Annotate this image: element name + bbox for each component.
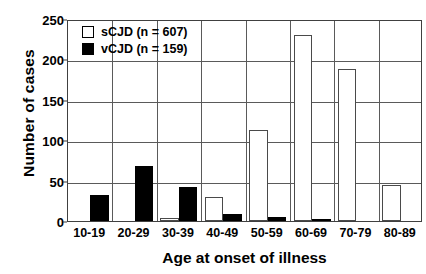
x-axis-tick-labels: 10-1920-2930-3940-4950-5960-6970-7980-89 — [67, 226, 422, 246]
bar-scjd-60-69 — [294, 35, 313, 221]
y-axis-tick-250: 250 — [4, 13, 64, 28]
legend-item-vcjd: vCJD (n = 159) — [82, 41, 188, 57]
bar-vcjd-60-69 — [312, 219, 331, 221]
plot-area: sCJD (n = 607) vCJD (n = 159) — [67, 20, 422, 222]
legend-swatch-scjd-icon — [82, 26, 94, 38]
category-separator — [201, 21, 202, 221]
x-axis-tick-70-79: 70-79 — [339, 226, 371, 240]
x-axis-tick-30-39: 30-39 — [162, 226, 194, 240]
x-axis-title: Age at onset of illness — [67, 249, 422, 267]
chart-figure: Number of cases 050100150200250 sCJD (n … — [0, 0, 426, 274]
x-axis-tick-40-49: 40-49 — [206, 226, 238, 240]
category-separator — [334, 21, 335, 221]
y-axis-tick-150: 150 — [4, 93, 64, 108]
y-axis-tick-50: 50 — [4, 174, 64, 189]
legend-item-scjd: sCJD (n = 607) — [82, 24, 188, 40]
x-axis-tick-60-69: 60-69 — [295, 226, 327, 240]
bar-vcjd-40-49 — [223, 214, 242, 221]
bar-vcjd-20-29 — [135, 166, 154, 221]
category-separator — [379, 21, 380, 221]
x-axis-tick-20-29: 20-29 — [118, 226, 150, 240]
y-axis-tick-200: 200 — [4, 53, 64, 68]
bar-scjd-40-49 — [205, 197, 224, 221]
y-axis-tick-0: 0 — [4, 215, 64, 230]
bar-scjd-70-79 — [338, 69, 357, 221]
bar-scjd-80-89 — [382, 185, 401, 221]
legend-label-vcjd: vCJD (n = 159) — [101, 43, 188, 56]
legend-label-scjd: sCJD (n = 607) — [101, 26, 188, 39]
bar-scjd-50-59 — [249, 130, 268, 221]
x-axis-tick-50-59: 50-59 — [251, 226, 283, 240]
x-axis-tick-80-89: 80-89 — [384, 226, 416, 240]
chart-legend: sCJD (n = 607) vCJD (n = 159) — [82, 24, 188, 57]
bar-vcjd-10-19 — [90, 195, 109, 221]
x-axis-tick-10-19: 10-19 — [73, 226, 105, 240]
y-axis-tick-100: 100 — [4, 134, 64, 149]
legend-swatch-vcjd-icon — [82, 43, 94, 55]
bar-vcjd-30-39 — [179, 187, 198, 221]
category-separator — [290, 21, 291, 221]
bar-scjd-30-39 — [160, 218, 179, 221]
bar-vcjd-50-59 — [268, 217, 287, 221]
category-separator — [246, 21, 247, 221]
